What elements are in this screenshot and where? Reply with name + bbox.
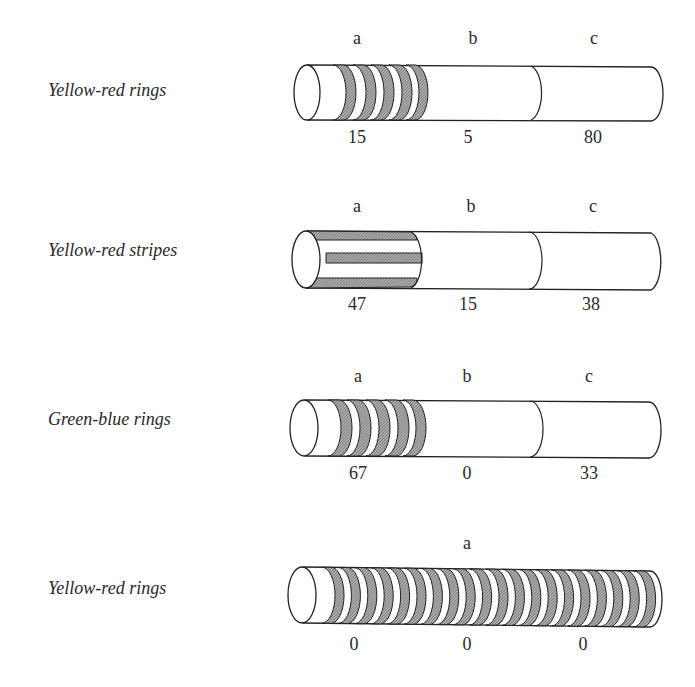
cylinder-3 — [290, 400, 661, 458]
segment-name-2a: a — [353, 196, 361, 217]
segment-name-1c: c — [590, 28, 598, 49]
cylinder-4 — [288, 567, 662, 627]
segment-value-1a: 15 — [348, 127, 366, 148]
segment-value-1c: 80 — [584, 127, 602, 148]
segment-value-2c: 38 — [582, 294, 600, 315]
cylinder-2 — [292, 231, 661, 290]
segment-value-2b: 15 — [459, 294, 477, 315]
segment-name-3c: c — [585, 366, 593, 387]
segment-name-2c: c — [589, 196, 597, 217]
segment-value-4c: 0 — [579, 634, 588, 655]
segment-name-3a: a — [354, 366, 362, 387]
segment-value-3b: 0 — [463, 463, 472, 484]
segment-value-3a: 67 — [349, 463, 367, 484]
segment-value-4a: 0 — [350, 634, 359, 655]
segment-value-4b: 0 — [463, 634, 472, 655]
segment-name-2b: b — [467, 196, 476, 217]
cylinder-1 — [294, 65, 663, 121]
segment-name-1a: a — [353, 28, 361, 49]
segment-name-3b: b — [463, 366, 472, 387]
segment-name-1b: b — [469, 28, 478, 49]
segment-name-4a: a — [463, 533, 471, 554]
segment-value-3c: 33 — [580, 463, 598, 484]
segment-value-2a: 47 — [348, 294, 366, 315]
segment-value-1b: 5 — [464, 127, 473, 148]
cylinder-diagram — [0, 0, 695, 687]
